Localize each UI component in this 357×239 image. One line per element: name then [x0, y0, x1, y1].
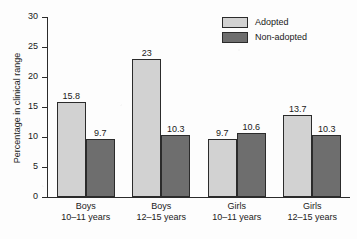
bar-value-label: 23: [142, 49, 152, 58]
category-label-line-1: Girls: [275, 201, 351, 212]
y-axis-tick-label: 5: [14, 162, 38, 171]
bar-value-label: 10.6: [242, 123, 260, 132]
category-label-line-2: 10–11 years: [199, 212, 275, 223]
bar-value-label: 15.8: [62, 92, 80, 101]
x-axis-category-label: Boys10–11 years: [48, 201, 124, 223]
y-axis-tick: [42, 77, 47, 78]
bar-adopted[interactable]: 9.7: [208, 139, 237, 197]
x-axis-category-label: Boys12–15 years: [124, 201, 200, 223]
legend-swatch-non-adopted: [222, 32, 248, 43]
bar-adopted[interactable]: 23: [132, 59, 161, 197]
bar-value-label: 9.7: [216, 129, 229, 138]
y-axis-tick-label: 10: [14, 132, 38, 141]
category-label-line-2: 12–15 years: [124, 212, 200, 223]
y-axis-tick: [42, 17, 47, 18]
x-axis-line: [47, 197, 350, 198]
category-label-line-1: Boys: [48, 201, 124, 212]
bar-value-label: 9.7: [94, 129, 107, 138]
y-axis-tick-label: 15: [14, 102, 38, 111]
category-label-line-1: Girls: [199, 201, 275, 212]
bar-value-label: 13.7: [289, 105, 307, 114]
x-axis-category-label: Girls12–15 years: [275, 201, 351, 223]
y-axis-tick-label: 20: [14, 72, 38, 81]
x-axis-category-label: Girls10–11 years: [199, 201, 275, 223]
chart-legend: Adopted Non-adopted: [222, 16, 307, 46]
bar-value-label: 10.3: [167, 125, 185, 134]
legend-item-adopted: Adopted: [222, 16, 307, 28]
category-label-line-2: 10–11 years: [48, 212, 124, 223]
bar-group: 15.89.7: [48, 17, 124, 197]
bar-adopted[interactable]: 15.8: [57, 102, 86, 197]
y-axis-tick: [42, 107, 47, 108]
bar-non-adopted[interactable]: 9.7: [86, 139, 115, 197]
category-label-line-1: Boys: [124, 201, 200, 212]
y-axis-tick: [42, 167, 47, 168]
category-label-line-2: 12–15 years: [275, 212, 351, 223]
bar-non-adopted[interactable]: 10.6: [237, 133, 266, 197]
bar-value-label: 10.3: [318, 125, 336, 134]
y-axis-tick-label: 0: [14, 192, 38, 201]
y-axis-tick: [42, 47, 47, 48]
legend-label-non-adopted: Non-adopted: [255, 32, 307, 43]
y-axis-tick-label: 30: [14, 12, 38, 21]
legend-swatch-adopted: [222, 17, 248, 28]
y-axis-tick: [42, 137, 47, 138]
y-axis-tick-label: 25: [14, 42, 38, 51]
legend-item-non-adopted: Non-adopted: [222, 31, 307, 43]
bar-adopted[interactable]: 13.7: [283, 115, 312, 197]
bar-group: 2310.3: [124, 17, 200, 197]
legend-label-adopted: Adopted: [255, 17, 289, 28]
bar-non-adopted[interactable]: 10.3: [312, 135, 341, 197]
y-axis-tick: [42, 197, 47, 198]
bar-chart-figure: Percentage in clinical range 05101520253…: [0, 0, 357, 239]
bar-non-adopted[interactable]: 10.3: [161, 135, 190, 197]
